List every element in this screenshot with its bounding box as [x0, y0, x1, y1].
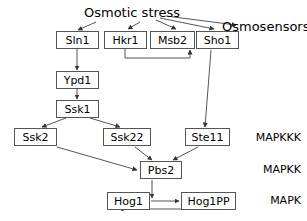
node-msb2[interactable]: Msb2	[150, 31, 195, 49]
node-pbs2-label: Pbs2	[148, 165, 174, 176]
node-sho1-label: Sho1	[204, 35, 232, 46]
node-msb2-label: Msb2	[158, 35, 187, 46]
tier-label-mapk: MAPK	[183, 195, 301, 206]
edge-stress-to-hkr1	[128, 22, 140, 29]
edge-ssk1-to-ssk2	[42, 118, 66, 127]
node-ssk22-label: Ssk22	[110, 132, 143, 143]
node-ypd1-label: Ypd1	[64, 75, 92, 86]
edge-stress-to-sln1	[78, 22, 96, 30]
node-sln1-label: Sln1	[65, 35, 89, 46]
hog-pathway-diagram: Osmotic stress Osmosensors Sln1 Hkr1 Msb…	[0, 0, 307, 221]
node-hkr1-label: Hkr1	[112, 35, 138, 46]
edge-sho1-to-ste11	[205, 50, 211, 127]
node-hkr1[interactable]: Hkr1	[104, 31, 147, 49]
edge-ste11-to-pbs2	[173, 147, 198, 160]
edge-ssk2-to-pbs2	[57, 147, 137, 170]
node-sln1[interactable]: Sln1	[56, 31, 99, 49]
node-ssk2[interactable]: Ssk2	[14, 128, 57, 146]
node-ssk22[interactable]: Ssk22	[103, 128, 151, 146]
node-hog1[interactable]: Hog1	[107, 192, 150, 210]
edge-ssk1-to-ssk22	[90, 118, 120, 127]
node-hog1-label: Hog1	[114, 196, 143, 207]
edge-hkr1-to-sho1	[125, 49, 190, 58]
node-ypd1[interactable]: Ypd1	[56, 71, 99, 89]
node-ssk2-label: Ssk2	[22, 132, 48, 143]
node-ssk1[interactable]: Ssk1	[56, 100, 99, 118]
tier-label-mapkk: MAPKK	[183, 164, 301, 175]
diagram-title: Osmotic stress	[84, 6, 180, 19]
edge-stress-to-msb2	[156, 20, 176, 29]
edge-ssk22-to-pbs2	[135, 147, 152, 160]
node-ssk1-label: Ssk1	[64, 104, 90, 115]
node-sho1[interactable]: Sho1	[196, 31, 239, 49]
tier-label-mapkkk: MAPKKK	[183, 132, 301, 143]
node-pbs2[interactable]: Pbs2	[140, 161, 182, 179]
